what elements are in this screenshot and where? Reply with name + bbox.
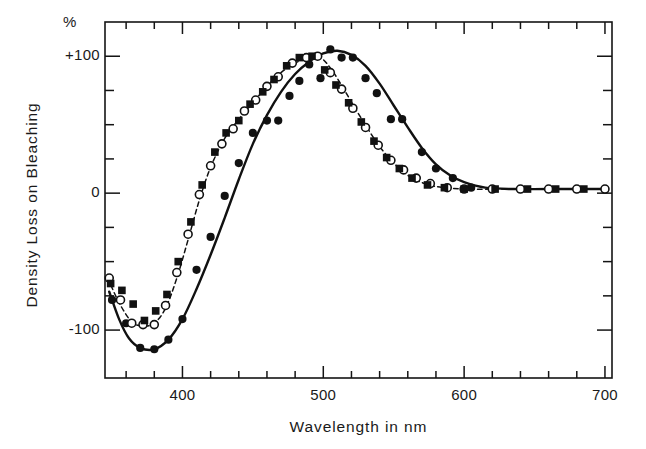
marker-filled-square xyxy=(308,52,316,60)
marker-open-circle xyxy=(229,125,237,133)
marker-filled-circle xyxy=(274,116,282,124)
marker-filled-circle xyxy=(349,54,357,62)
marker-filled-square xyxy=(222,129,230,137)
marker-open-circle xyxy=(573,185,581,193)
marker-filled-square xyxy=(358,118,366,126)
marker-filled-circle xyxy=(418,148,426,156)
x-axis-title: Wavelength in nm xyxy=(105,418,612,436)
y-tick-label: 0 xyxy=(40,183,100,200)
x-tick-label: 500 xyxy=(293,386,353,403)
marker-filled-circle xyxy=(249,129,257,137)
marker-filled-square xyxy=(524,185,532,193)
chart-plot-area xyxy=(0,0,646,449)
marker-filled-circle xyxy=(398,115,406,123)
marker-filled-square xyxy=(198,181,206,189)
marker-filled-circle xyxy=(449,174,457,182)
marker-filled-circle xyxy=(178,315,186,323)
marker-filled-circle xyxy=(263,116,271,124)
marker-open-circle xyxy=(207,162,215,170)
marker-filled-circle xyxy=(221,192,229,200)
y-tick-label: -100 xyxy=(40,320,100,337)
marker-filled-circle xyxy=(108,296,116,304)
marker-filled-square xyxy=(321,66,329,74)
figure-container: % Density Loss on Bleaching Wavelength i… xyxy=(0,0,646,449)
y-axis-title: Density Loss on Bleaching xyxy=(23,55,41,355)
data-curves xyxy=(108,51,605,350)
marker-open-circle xyxy=(545,185,553,193)
marker-filled-square xyxy=(408,174,416,182)
marker-open-circle xyxy=(240,107,248,115)
x-tick-label: 600 xyxy=(434,386,494,403)
marker-filled-square xyxy=(246,100,254,108)
marker-filled-square xyxy=(187,218,195,226)
marker-filled-square xyxy=(580,185,588,193)
marker-filled-square xyxy=(152,307,160,315)
x-tick-label: 700 xyxy=(575,386,635,403)
marker-filled-square xyxy=(460,185,468,193)
marker-filled-square xyxy=(174,258,182,266)
marker-open-circle xyxy=(128,319,136,327)
marker-open-circle xyxy=(150,321,158,329)
marker-filled-square xyxy=(396,165,404,173)
marker-open-circle xyxy=(116,296,124,304)
marker-open-circle xyxy=(516,185,524,193)
marker-filled-square xyxy=(424,181,432,189)
marker-open-circle xyxy=(601,185,609,193)
marker-filled-circle xyxy=(192,266,200,274)
marker-filled-circle xyxy=(432,164,440,172)
marker-filled-square xyxy=(129,300,137,308)
marker-filled-square xyxy=(259,88,267,96)
marker-filled-square xyxy=(552,185,560,193)
marker-open-circle xyxy=(218,140,226,148)
marker-filled-square xyxy=(491,185,499,193)
data-markers xyxy=(105,45,609,353)
marker-filled-circle xyxy=(326,45,334,53)
marker-filled-circle xyxy=(136,344,144,352)
marker-filled-square xyxy=(296,54,304,62)
marker-filled-square xyxy=(283,62,291,70)
marker-filled-circle xyxy=(164,336,172,344)
marker-filled-square xyxy=(345,99,353,107)
marker-open-circle xyxy=(173,269,181,277)
marker-filled-circle xyxy=(207,233,215,241)
marker-open-circle xyxy=(162,301,170,309)
marker-filled-circle xyxy=(338,54,346,62)
marker-open-circle xyxy=(184,230,192,238)
marker-filled-circle xyxy=(387,115,395,123)
marker-filled-circle xyxy=(235,159,243,167)
marker-filled-square xyxy=(211,148,219,156)
axis-ticks xyxy=(105,22,612,378)
y-tick-label: +100 xyxy=(40,46,100,63)
marker-filled-circle xyxy=(150,345,158,353)
marker-filled-circle xyxy=(316,74,324,82)
marker-filled-square xyxy=(270,76,278,84)
plot-frame xyxy=(105,22,612,378)
x-tick-label: 400 xyxy=(152,386,212,403)
marker-filled-square xyxy=(163,291,171,299)
marker-filled-square xyxy=(107,280,115,288)
axis-frame xyxy=(105,22,612,378)
marker-filled-circle xyxy=(285,92,293,100)
marker-filled-square xyxy=(370,137,378,145)
marker-filled-square xyxy=(235,117,243,125)
marker-open-circle xyxy=(195,191,203,199)
y-axis-unit-label: % xyxy=(63,13,76,30)
curve-filled-circle-solid xyxy=(109,51,605,350)
marker-filled-circle xyxy=(361,74,369,82)
marker-filled-square xyxy=(332,81,340,89)
marker-filled-square xyxy=(118,287,126,295)
marker-filled-square xyxy=(441,184,449,192)
marker-filled-circle xyxy=(373,89,381,97)
marker-filled-square xyxy=(383,154,391,162)
marker-filled-circle xyxy=(295,77,303,85)
marker-filled-square xyxy=(141,317,149,325)
